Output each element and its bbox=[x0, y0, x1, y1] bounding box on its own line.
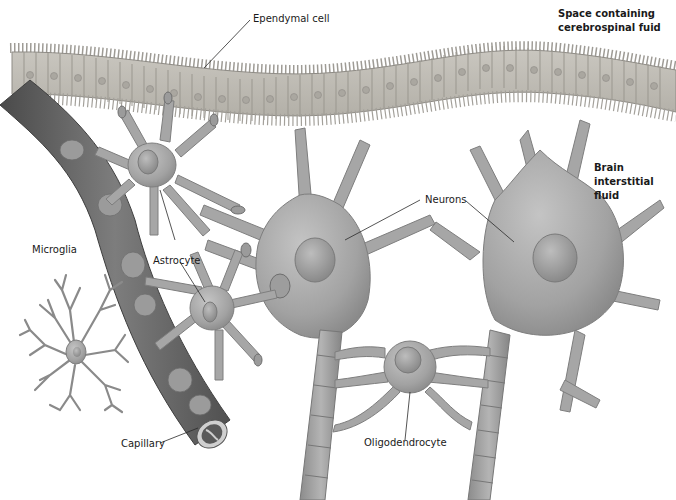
microglia-soma bbox=[66, 340, 86, 364]
label-neurons: Neurons bbox=[425, 193, 467, 206]
ependymal-layer bbox=[10, 46, 676, 121]
label-astrocyte: Astrocyte bbox=[153, 254, 200, 267]
glial-cells-diagram bbox=[0, 0, 676, 500]
label-bif-line-3: fluid bbox=[594, 189, 654, 203]
label-csf-space: Space containing cerebrospinal fuid bbox=[558, 7, 661, 35]
label-bif-line-1: Brain bbox=[594, 161, 654, 175]
label-capillary: Capillary bbox=[121, 437, 165, 450]
label-brain-interstitial-fluid: Brain interstitial fluid bbox=[594, 161, 654, 203]
label-bif-line-2: interstitial bbox=[594, 175, 654, 189]
oligodendrocyte bbox=[333, 341, 490, 432]
label-microglia: Microglia bbox=[32, 243, 77, 256]
label-csf-line-2: cerebrospinal fuid bbox=[558, 21, 661, 35]
label-oligodendrocyte: Oligodendrocyte bbox=[364, 436, 447, 449]
label-ependymal-cell: Ependymal cell bbox=[253, 12, 329, 25]
label-csf-line-1: Space containing bbox=[558, 7, 661, 21]
